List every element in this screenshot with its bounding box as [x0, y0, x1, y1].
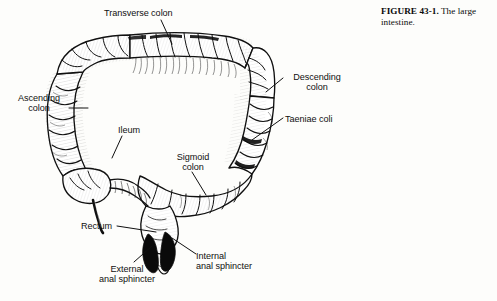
label-ileum: Ileum	[118, 125, 140, 135]
hepatic-flexure	[54, 32, 138, 76]
figure-page: FIGURE 43-1. The large intestine. Transv…	[0, 0, 497, 301]
label-rectum: Rectum	[81, 221, 112, 231]
label-ascending-colon: Ascending colon	[9, 93, 69, 113]
leader-ileum	[112, 136, 122, 158]
figure-number: FIGURE 43-1.	[381, 6, 439, 16]
ascending-colon	[44, 66, 98, 178]
label-sigmoid-colon: Sigmoid colon	[166, 152, 220, 172]
label-descending-colon: Descending colon	[285, 72, 349, 92]
transverse-colon	[126, 32, 258, 78]
label-external-anal-sphincter: External anal sphincter	[88, 264, 166, 284]
cecum	[63, 168, 111, 203]
label-taeniae-coli: Taeniae coli	[285, 114, 332, 124]
descending-colon	[224, 94, 280, 178]
splenic-flexure	[240, 44, 280, 102]
leader-sigmoid-colon	[192, 172, 206, 195]
label-transverse-colon: Transverse colon	[104, 8, 173, 18]
label-internal-anal-sphincter: Internal anal sphincter	[196, 251, 280, 271]
figure-caption: FIGURE 43-1. The large intestine.	[381, 6, 493, 29]
